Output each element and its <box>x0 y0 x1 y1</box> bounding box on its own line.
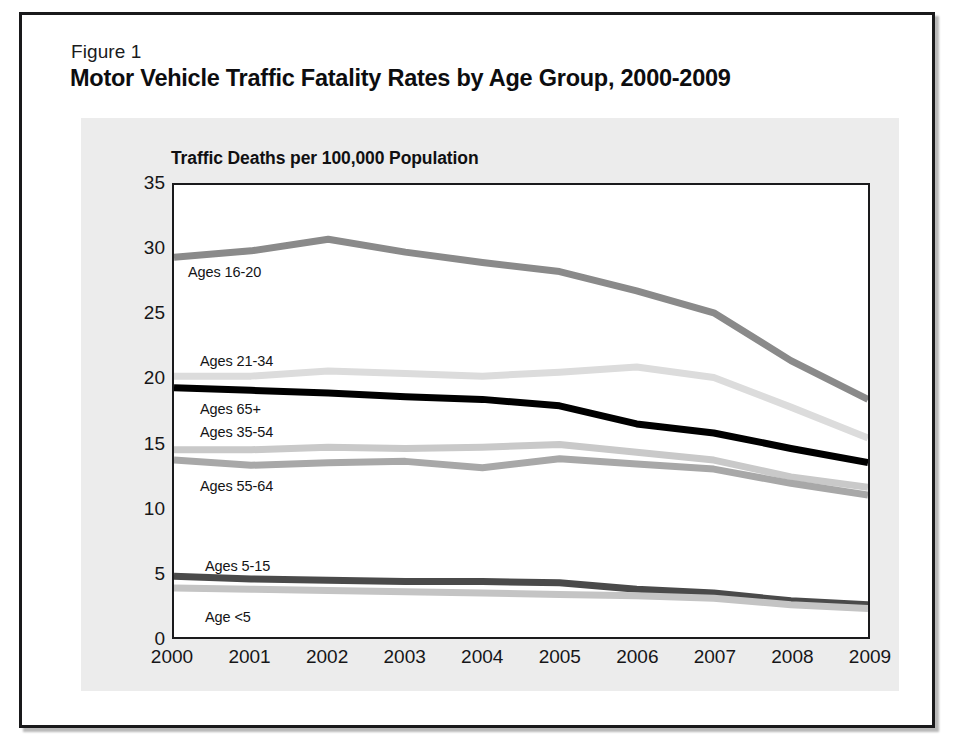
series-label: Ages 55-64 <box>200 478 273 494</box>
figure-number: Figure 1 <box>71 41 142 63</box>
x-axis-tick-label: 2009 <box>835 646 905 668</box>
page-title: Motor Vehicle Traffic Fatality Rates by … <box>70 65 731 92</box>
series-label: Ages 21-34 <box>200 353 273 369</box>
series-label: Ages 35-54 <box>200 424 273 440</box>
figure-card: Figure 1 Motor Vehicle Traffic Fatality … <box>19 12 935 728</box>
x-axis-tick-label: 2008 <box>757 646 827 668</box>
x-axis-tick-label: 2000 <box>137 646 207 668</box>
y-axis-tick-labels: 05101520253035 <box>81 183 165 639</box>
y-axis-title: Traffic Deaths per 100,000 Population <box>171 148 479 169</box>
x-axis-tick-label: 2003 <box>370 646 440 668</box>
series-label: Ages 5-15 <box>205 558 270 574</box>
y-axis-tick-label: 30 <box>123 237 165 259</box>
y-axis-tick-label: 15 <box>123 433 165 455</box>
y-axis-tick-label: 5 <box>123 563 165 585</box>
series-label: Age <5 <box>205 609 251 625</box>
x-axis-tick-label: 2001 <box>215 646 285 668</box>
y-axis-tick-label: 35 <box>123 172 165 194</box>
plot-area <box>172 183 870 639</box>
chart-panel: Traffic Deaths per 100,000 Population 05… <box>81 118 899 691</box>
x-axis-tick-label: 2007 <box>680 646 750 668</box>
series-label: Ages 16-20 <box>188 264 261 280</box>
x-axis-tick-label: 2004 <box>447 646 517 668</box>
x-axis-tick-labels: 2000200120022003200420052006200720082009 <box>172 646 870 674</box>
y-axis-tick-label: 10 <box>123 498 165 520</box>
series-line-ages-55-64 <box>174 459 868 495</box>
x-axis-tick-label: 2006 <box>602 646 672 668</box>
series-label: Ages 65+ <box>200 401 261 417</box>
x-axis-tick-label: 2005 <box>525 646 595 668</box>
y-axis-tick-label: 20 <box>123 367 165 389</box>
x-axis-tick-label: 2002 <box>292 646 362 668</box>
line-chart-svg <box>174 185 868 637</box>
y-axis-tick-label: 25 <box>123 302 165 324</box>
